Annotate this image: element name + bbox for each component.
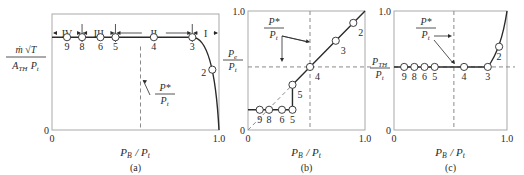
critical-pressure-annotation: P*Pt <box>155 82 175 108</box>
y-tick-label: 1.0 <box>233 6 246 17</box>
point-marker <box>401 63 408 70</box>
operating-point-5: 5 <box>431 63 438 82</box>
critical-pressure-annotation-numerator: P* <box>267 16 279 27</box>
exit-pressure-curve <box>248 11 365 110</box>
point-marker <box>265 106 272 113</box>
point-marker <box>289 81 296 88</box>
point-marker <box>256 106 263 113</box>
point-marker <box>78 34 85 41</box>
x-tick-label: 0 <box>246 133 251 144</box>
point-label: 6 <box>279 114 284 125</box>
arrowhead-icon <box>53 31 57 35</box>
panel-caption: (b) <box>301 162 313 174</box>
y-axis-label-numerator: ṁ √T <box>16 44 38 55</box>
point-label: 8 <box>80 41 85 52</box>
y-axis-label: PTH Pt <box>370 56 390 82</box>
operating-point-9: 9 <box>256 106 263 125</box>
point-marker <box>484 63 491 70</box>
panel-b: 01.001.0PB / Pt (b)Pe Pt P*Pt 98655432 <box>223 6 373 174</box>
operating-point-4: 4 <box>306 63 320 82</box>
y-axis-label: ṁ √TATH Pt <box>6 44 46 73</box>
operating-point-8: 8 <box>265 106 272 125</box>
operating-point-6: 6 <box>97 34 104 53</box>
operating-point-5: 5 <box>112 34 119 53</box>
point-label: 5 <box>297 89 302 100</box>
operating-point-3: 3 <box>484 63 491 82</box>
operating-point-5: 5 <box>289 106 296 125</box>
operating-point-3: 3 <box>189 34 196 53</box>
throat-pressure-curve <box>394 11 507 67</box>
arrowhead-icon <box>306 39 310 43</box>
arrowhead-icon <box>214 31 218 35</box>
y-tick-label: 1.0 <box>379 6 392 17</box>
figure-canvas: 01.00PB / Pt (a)ṁ √TATH Pt IVIIIIIIP*Pt … <box>0 0 524 175</box>
point-label: 6 <box>422 71 427 82</box>
operating-point-3: 3 <box>332 37 346 56</box>
point-label: 5 <box>113 41 118 52</box>
point-label: 2 <box>497 51 502 62</box>
x-tick-label: 1.0 <box>501 133 514 144</box>
point-label: 2 <box>201 67 206 78</box>
point-marker <box>431 63 438 70</box>
point-marker <box>332 37 339 44</box>
panel-a: 01.00PB / Pt (a)ṁ √TATH Pt IVIIIIIIP*Pt … <box>6 14 225 174</box>
region-label: I <box>204 28 207 39</box>
x-tick-label: 1.0 <box>213 133 226 144</box>
point-marker <box>421 63 428 70</box>
point-marker <box>460 63 467 70</box>
point-marker <box>411 63 418 70</box>
point-label: 3 <box>341 45 346 56</box>
operating-point-2: 2 <box>350 19 364 38</box>
y-tick-label: 0 <box>240 125 245 136</box>
point-label: 9 <box>65 41 70 52</box>
operating-point-4: 4 <box>460 63 467 82</box>
critical-pressure-annotation-denominator: Pt <box>421 29 431 42</box>
y-axis-label: Pe Pt <box>223 48 243 74</box>
operating-point-5: 5 <box>289 81 303 100</box>
arrowhead-icon <box>280 58 284 62</box>
y-axis-label-numerator: Pe <box>227 48 238 61</box>
point-label: 9 <box>257 114 262 125</box>
point-label: 6 <box>98 41 103 52</box>
operating-point-2: 2 <box>495 43 502 62</box>
panel-caption: (c) <box>445 162 456 174</box>
point-marker <box>97 34 104 41</box>
arrowhead-icon <box>143 80 147 84</box>
point-marker <box>112 34 119 41</box>
y-axis-label-denominator: Pt <box>228 61 238 74</box>
arrowhead-icon <box>448 34 452 38</box>
point-marker <box>289 106 296 113</box>
point-label: 8 <box>412 71 417 82</box>
y-axis-label-numerator: PTH <box>371 56 388 69</box>
point-label: 5 <box>432 71 437 82</box>
y-axis-label-denominator: ATH Pt <box>11 60 40 73</box>
point-marker <box>150 34 157 41</box>
point-label: 9 <box>402 71 407 82</box>
point-label: 4 <box>462 71 467 82</box>
critical-pressure-annotation-numerator: P* <box>419 16 431 27</box>
operating-point-9: 9 <box>63 34 70 53</box>
critical-pressure-annotation: P*Pt <box>264 16 284 42</box>
x-tick-label: 0 <box>392 133 397 144</box>
point-label: 8 <box>267 114 272 125</box>
y-tick-label: 0 <box>44 125 49 136</box>
x-axis-label: PB / Pt <box>290 146 322 160</box>
point-marker <box>306 63 313 70</box>
y-axis-label-denominator: Pt <box>375 69 385 82</box>
panel-c: 01.001.0PB / Pt (c)PTH Pt P*Pt 9865432 <box>370 6 515 174</box>
critical-pressure-annotation: P*Pt <box>416 16 436 42</box>
point-label: 4 <box>151 41 156 52</box>
critical-pressure-annotation-denominator: Pt <box>160 95 170 108</box>
x-axis-label: PB / Pt <box>434 146 466 160</box>
critical-pressure-annotation-numerator: P* <box>158 82 170 93</box>
plot-frame <box>52 14 219 130</box>
point-marker <box>209 66 216 73</box>
operating-point-8: 8 <box>411 63 418 82</box>
point-marker <box>495 43 502 50</box>
point-marker <box>278 106 285 113</box>
point-marker <box>350 19 357 26</box>
point-label: 3 <box>485 71 490 82</box>
point-label: 5 <box>290 114 295 125</box>
y-tick-label: 0 <box>386 125 391 136</box>
x-tick-label: 1.0 <box>359 133 372 144</box>
